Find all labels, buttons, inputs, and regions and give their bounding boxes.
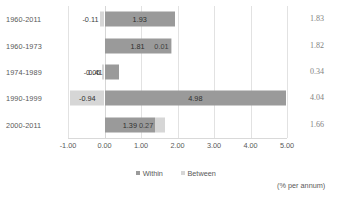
bar-value-label: 1.93 [133,15,147,24]
chart-row: 1960-19731.810.01 [68,32,287,58]
bar-value-label: 0.01 [154,41,168,50]
stacked-bar-chart: 1960-2011-0.111.931960-19731.810.011974-… [0,0,352,198]
legend-label: Between [187,169,215,178]
row-category-label: 1960-2011 [6,15,62,24]
units-footnote: (% per annum) [277,181,325,190]
bar-value-label: -0.11 [82,15,98,24]
legend-label: Within [143,169,163,178]
row-category-label: 1974-1989 [6,67,62,76]
legend-entry[interactable]: Within [136,168,163,178]
bar-value-label: -0.94 [79,94,96,103]
x-tick-label: 0.00 [97,141,111,150]
x-tick-label: 1.00 [134,141,148,150]
bar-value-label: 0.41 [88,67,102,76]
row-category-label: 1990-1999 [6,94,62,103]
chart-row: 1974-1989-0.060.41 [68,59,287,85]
bar-value-label: 1.81 [130,41,144,50]
row-total-value: 4.04 [310,93,324,102]
bar-segment-between[interactable] [155,117,165,132]
row-total-value: 0.34 [310,67,324,76]
row-total-value: 1.66 [310,120,324,129]
row-category-label: 1960-1973 [6,41,62,50]
bar-value-label: 4.98 [188,94,202,103]
bar-segment-between[interactable] [171,38,172,53]
row-total-value: 1.82 [310,41,324,50]
chart-row: 1990-1999-0.944.98 [68,85,287,111]
x-tick-label: -1.00 [60,141,77,150]
row-category-label: 2000-2011 [6,120,62,129]
x-tick-label: 2.00 [170,141,184,150]
row-total-value: 1.83 [310,14,324,23]
chart-row: 2000-20111.390.27 [68,112,287,138]
plot-area: 1960-2011-0.111.931960-19731.810.011974-… [68,6,287,138]
x-tick-label: 5.00 [280,141,294,150]
legend-entry[interactable]: Between [181,168,216,178]
chart-row: 1960-2011-0.111.93 [68,6,287,32]
x-tick-label: 4.00 [243,141,257,150]
legend-swatch-icon [181,171,185,175]
legend-swatch-icon [136,171,140,175]
bar-value-label: 1.39 [123,120,137,129]
x-tick-label: 3.00 [207,141,221,150]
gridline [287,6,288,138]
bar-value-label: 0.27 [139,120,153,129]
bar-segment-within[interactable] [105,64,120,79]
chart-legend: WithinBetween [0,168,352,178]
x-axis-line [68,138,287,139]
